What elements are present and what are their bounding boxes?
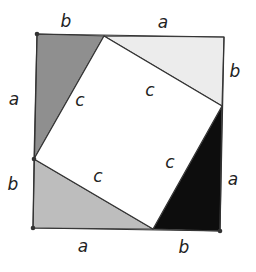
label-c-4: c <box>93 166 103 186</box>
label-left-a: a <box>9 89 19 109</box>
label-left-b: b <box>8 174 19 194</box>
label-top-b: b <box>61 11 72 31</box>
label-right-b: b <box>230 61 241 81</box>
vertex-dot <box>32 157 37 162</box>
label-c-1: c <box>75 90 85 110</box>
vertex-dot <box>35 32 40 37</box>
label-bottom-b: b <box>179 237 190 257</box>
label-c-3: c <box>165 152 175 172</box>
diagram-canvas: babababacccc <box>0 0 256 272</box>
label-bottom-a: a <box>78 236 88 256</box>
pythagorean-diagram: babababacccc <box>0 0 256 272</box>
label-right-a: a <box>228 169 238 189</box>
label-top-a: a <box>158 12 168 32</box>
label-c-2: c <box>145 80 155 100</box>
vertex-dot <box>31 226 36 231</box>
vertex-dot <box>218 229 223 234</box>
